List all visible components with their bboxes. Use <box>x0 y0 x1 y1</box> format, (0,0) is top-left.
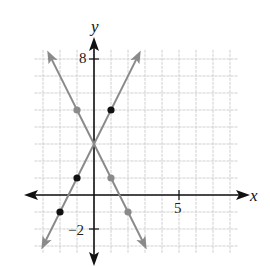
plot-area: x y 8 −2 5 <box>0 0 270 267</box>
data-point <box>124 208 131 215</box>
tick-label-5: 5 <box>174 200 182 216</box>
tick-label-8: 8 <box>79 50 87 66</box>
data-point <box>56 208 63 215</box>
data-point <box>107 106 114 113</box>
series-2 <box>47 51 146 250</box>
tick-label-neg2: −2 <box>68 222 84 238</box>
x-axis-label: x <box>249 186 258 205</box>
data-point <box>107 174 114 181</box>
data-point <box>73 106 80 113</box>
grid-lines <box>35 49 239 253</box>
y-axis-label: y <box>89 17 99 36</box>
coordinate-graph: x y 8 −2 5 <box>0 0 270 267</box>
series-1 <box>41 51 140 250</box>
data-point <box>73 174 80 181</box>
